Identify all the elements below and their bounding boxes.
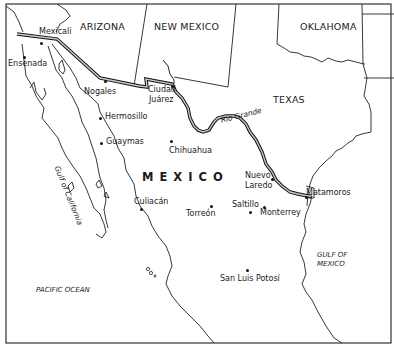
city-label-nuevo-laredo-line2: Laredo — [245, 182, 272, 191]
water-label-gulf-of-mexico-line2: MEXICO — [317, 261, 345, 269]
city-label-ciudad-juarez-line1: Ciudad — [148, 86, 176, 95]
map-container: ARIZONA NEW MEXICO OKLAHOMA TEXAS MEXICO… — [0, 0, 394, 348]
water-label-pacific-ocean: PACIFIC OCEAN — [36, 287, 90, 295]
islas-marias — [146, 267, 156, 277]
city-label-monterrey: Monterrey — [260, 209, 301, 218]
city-label-mexicali: Mexicali — [39, 28, 71, 37]
city-label-ciudad-juarez-line2: Juárez — [149, 96, 174, 105]
city-marker-saltillo — [249, 211, 252, 214]
country-label-mexico: MEXICO — [142, 171, 229, 184]
city-marker-torreon — [210, 205, 213, 208]
city-label-san-luis-potosi: San Luis Potosí — [220, 275, 280, 284]
state-label-texas: TEXAS — [273, 95, 305, 105]
city-marker-nogales — [104, 80, 107, 83]
city-marker-san-luis-potosi — [246, 269, 249, 272]
state-label-oklahoma: OKLAHOMA — [300, 22, 357, 32]
city-label-guaymas: Guaymas — [106, 138, 144, 147]
city-marker-hermosillo — [99, 117, 102, 120]
city-label-hermosillo: Hermosillo — [105, 113, 148, 122]
city-label-culiacan: Culiacán — [134, 198, 168, 207]
state-label-arizona: ARIZONA — [80, 22, 125, 32]
city-label-saltillo: Saltillo — [232, 201, 259, 210]
water-label-gulf-of-mexico-line1: GULF OF — [317, 252, 347, 260]
city-marker-guaymas — [100, 142, 103, 145]
city-label-nogales: Nogales — [84, 88, 116, 97]
city-marker-chihuahua — [170, 140, 173, 143]
city-marker-culiacan — [140, 208, 143, 211]
city-label-ensenada: Ensenada — [8, 60, 47, 69]
city-marker-mexicali — [40, 42, 43, 45]
state-label-new-mexico: NEW MEXICO — [154, 22, 219, 32]
city-label-torreon: Torreón — [186, 210, 216, 219]
city-label-nuevo-laredo-line1: Nuevo — [245, 172, 271, 181]
city-label-chihuahua: Chihuahua — [169, 147, 212, 156]
city-label-matamoros: Matamoros — [306, 189, 351, 198]
